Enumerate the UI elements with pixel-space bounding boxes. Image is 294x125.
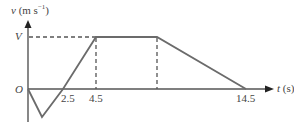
y-axis-unit-close: ): [45, 4, 49, 16]
y-axis-arrow-icon: [25, 20, 32, 28]
origin-label: O: [15, 84, 23, 95]
x-axis-arrow-icon: [265, 86, 274, 93]
velocity-curve: [28, 37, 246, 117]
y-axis-label: v (m s−1): [11, 4, 49, 16]
x-axis-label: t (s): [277, 83, 294, 94]
x-axis-symbol: t: [277, 82, 280, 94]
x-axis-unit: (s): [283, 82, 294, 94]
y-axis-symbol: v: [11, 4, 16, 16]
tick-label-4-5: 4.5: [89, 93, 103, 104]
v-level-label: V: [15, 31, 22, 42]
tick-label-2-5: 2.5: [61, 93, 75, 104]
y-axis-unit: (m s: [19, 4, 38, 16]
velocity-time-graph: [0, 0, 294, 125]
tick-label-14-5: 14.5: [236, 93, 255, 104]
